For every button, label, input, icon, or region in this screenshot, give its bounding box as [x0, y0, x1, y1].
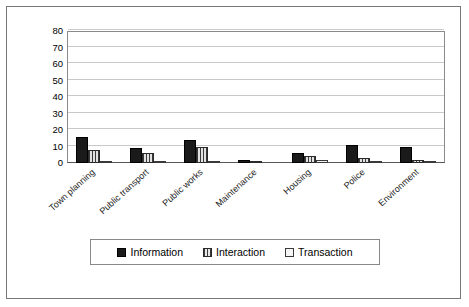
y-axis: 80706050403020100: [33, 31, 63, 163]
x-axis-label-text: Police: [342, 167, 367, 191]
y-tick-label: 70: [52, 43, 63, 53]
y-tick-label: 60: [52, 59, 63, 69]
legend-label: Interaction: [216, 247, 265, 258]
gridline: [68, 95, 444, 96]
gridline: [68, 29, 444, 30]
y-tick-label: 40: [52, 92, 63, 102]
chart-legend: InformationInteractionTransaction: [90, 239, 380, 265]
gridline: [68, 112, 444, 113]
x-axis-label-text: Housing: [281, 167, 312, 197]
legend-swatch-icon: [117, 248, 126, 257]
chart-frame: 80706050403020100 Town planningPublic tr…: [6, 6, 461, 299]
gridline: [68, 79, 444, 80]
gridline: [68, 128, 444, 129]
legend-label: Information: [130, 247, 183, 258]
y-tick-label: 20: [52, 125, 63, 135]
legend-swatch-icon: [285, 248, 294, 257]
y-tick-label: 0: [58, 158, 63, 168]
legend-item-interaction[interactable]: Interaction: [203, 247, 265, 258]
y-tick-label: 10: [52, 142, 63, 152]
x-axis-label-text: Town planning: [47, 167, 96, 213]
legend-label: Transaction: [298, 247, 352, 258]
y-tick-label: 30: [52, 109, 63, 119]
legend-item-information[interactable]: Information: [117, 247, 183, 258]
x-label-slot: Housing: [283, 165, 337, 227]
x-label-slot: Maintenance: [229, 165, 283, 227]
gridline: [68, 62, 444, 63]
gridline: [68, 46, 444, 47]
y-tick-label: 80: [52, 26, 63, 36]
legend-swatch-icon: [203, 248, 212, 257]
x-axis: Town planningPublic transportPublic work…: [67, 165, 445, 227]
x-label-slot: Environment: [391, 165, 445, 227]
y-tick-label: 50: [52, 76, 63, 86]
legend-item-transaction[interactable]: Transaction: [285, 247, 352, 258]
